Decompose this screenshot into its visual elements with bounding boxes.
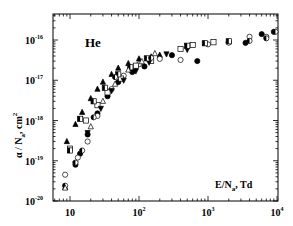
x-axis-label: E/Na, Td xyxy=(215,179,253,193)
y-tick-label: 10-16 xyxy=(25,34,43,46)
y-tick-label: 10-20 xyxy=(25,195,43,207)
data-point xyxy=(169,53,174,58)
data-point xyxy=(91,99,96,104)
data-point xyxy=(102,85,107,90)
data-point xyxy=(112,74,117,79)
data-point xyxy=(95,86,100,91)
data-point xyxy=(247,38,252,43)
x-tick-label: 10 xyxy=(65,207,75,218)
data-point xyxy=(152,50,157,55)
data-point xyxy=(73,160,78,165)
data-point xyxy=(85,139,90,144)
data-point xyxy=(67,148,72,153)
data-point xyxy=(202,41,207,46)
scatter-chart: 1010210310410-2010-1910-1810-1710-16 He … xyxy=(0,0,293,226)
data-point xyxy=(98,106,103,111)
data-point xyxy=(149,55,154,60)
x-tick-label: 102 xyxy=(133,206,146,218)
y-tick-label: 10-18 xyxy=(25,115,43,127)
data-point xyxy=(264,36,269,41)
data-point xyxy=(190,42,195,47)
data-point xyxy=(142,64,147,69)
annotation-he: He xyxy=(85,35,101,50)
data-point xyxy=(80,109,85,114)
data-point xyxy=(273,29,278,34)
data-point xyxy=(195,58,200,63)
data-point xyxy=(185,43,190,48)
x-tick-label: 103 xyxy=(202,206,215,218)
data-point xyxy=(77,116,82,121)
data-point xyxy=(164,52,169,57)
data-point xyxy=(133,63,138,68)
data-point xyxy=(116,65,121,70)
y-tick-label: 10-19 xyxy=(25,155,43,167)
data-point xyxy=(75,155,80,160)
data-point xyxy=(100,98,105,103)
data-point xyxy=(100,79,105,84)
x-tick-label: 104 xyxy=(271,206,284,218)
data-point xyxy=(80,148,85,153)
data-point xyxy=(178,57,183,62)
data-point xyxy=(83,118,88,123)
data-point xyxy=(88,124,93,129)
data-point xyxy=(226,39,231,44)
data-point xyxy=(211,40,216,45)
data-point xyxy=(91,115,96,120)
data-point xyxy=(64,138,69,143)
data-points xyxy=(63,29,279,190)
data-point xyxy=(157,56,162,61)
data-point xyxy=(73,121,78,126)
data-point xyxy=(178,46,183,51)
data-point xyxy=(63,172,68,177)
y-tick-label: 10-17 xyxy=(25,74,43,86)
